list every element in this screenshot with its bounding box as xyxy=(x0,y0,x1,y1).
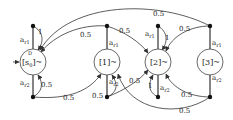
prob-s2-r1-self: 1 xyxy=(165,34,169,42)
action-label-s0-r2: ar2 xyxy=(20,79,30,88)
state-label-s3: [3]~ xyxy=(202,58,220,67)
state-label-s0: [s0]~ xyxy=(22,58,42,68)
action-dot-s1-r1 xyxy=(105,24,109,28)
action-dot-s0-r1 xyxy=(31,24,35,28)
prob-s0-r2-s1: 0.5 xyxy=(63,94,74,102)
action-dot-s3-r1 xyxy=(208,24,212,28)
prob-s0-r2-self: 0.5 xyxy=(41,81,52,89)
prob-s1-r1-s0: 0.5 xyxy=(80,31,91,39)
action-dot-s1-r2 xyxy=(105,95,109,99)
state-label-s2: [2]~ xyxy=(150,58,168,67)
prob-s3-r1-s2: 0.5 xyxy=(179,25,190,33)
action-dot-s2-r2 xyxy=(156,95,160,99)
action-dot-s0-r2 xyxy=(31,95,35,99)
prob-s1-r2-s2: 0.5 xyxy=(129,77,140,85)
prob-s2-r2-self: 1 xyxy=(148,82,152,90)
action-label-s3-r1: ar1 xyxy=(212,39,222,48)
mdp-diagram: [s0]~ D [1]~ [2]~ [3]~ ar1 ar2 ar1 ar2 a… xyxy=(0,0,233,120)
action-label-s3-r2: ar2 xyxy=(212,74,222,83)
action-label-s2-r2: ar2 xyxy=(160,84,170,93)
prob-s3-r1-s0: 0.5 xyxy=(153,10,164,18)
action-label-s1-r1: ar1 xyxy=(109,39,119,48)
action-label-s0-r1: ar1 xyxy=(20,36,30,45)
action-label-s2-r1: ar1 xyxy=(145,30,155,39)
state-label-s1: [1]~ xyxy=(99,58,117,67)
state-label-s0-sup: D xyxy=(28,50,32,56)
prob-s3-r2-s1: 0.5 xyxy=(179,107,190,115)
prob-s1-r2-self: 0.5 xyxy=(92,92,103,100)
action-dot-s2-r1 xyxy=(156,24,160,28)
prob-s0-r1-self: 1 xyxy=(38,28,42,36)
action-label-s1-r2: ar2 xyxy=(109,78,119,87)
prob-s1-r1-s2: 0.5 xyxy=(119,27,130,35)
action-dot-s3-r2 xyxy=(208,95,212,99)
edge-s1-r1-s0 xyxy=(41,26,107,52)
prob-s3-r2-s2: 0.5 xyxy=(181,91,192,99)
